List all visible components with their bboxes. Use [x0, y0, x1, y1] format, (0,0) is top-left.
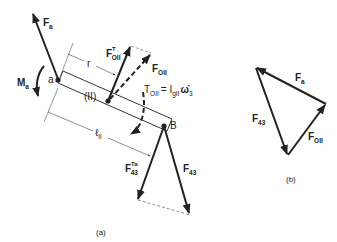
- extension-line-a-top: [60, 43, 73, 77]
- dimension-r-label: r: [87, 58, 91, 69]
- force-foii-t-label: FTOII: [106, 46, 121, 61]
- dimension-length-label: ℓII: [95, 127, 102, 140]
- force-foii-t: FTOII: [106, 46, 130, 101]
- parallelogram-top: [131, 46, 151, 53]
- force-f43: F43: [164, 126, 197, 213]
- dimension-length: ℓII: [48, 112, 150, 156]
- caption-b: (b): [286, 175, 296, 184]
- moment-ma-label: Ma: [17, 77, 29, 90]
- link-body: [58, 71, 172, 131]
- torque-equation: TOII= IgIIω̇3: [144, 84, 193, 98]
- part-a: r ℓII Ma Fa a (II) FTOII: [17, 14, 197, 237]
- force-fa-label: Fa: [43, 17, 53, 30]
- free-body-diagram: r ℓII Ma Fa a (II) FTOII: [0, 0, 337, 242]
- polygon-force-f43-label: F43: [252, 113, 266, 126]
- parallelogram-bottom: [138, 200, 190, 215]
- force-f43-ta: FTa43: [125, 126, 164, 199]
- point-b-label: B: [170, 120, 177, 131]
- caption-a: (a): [96, 228, 106, 237]
- polygon-force-foii: [288, 105, 325, 155]
- polygon-force-foii-label: FOII: [308, 131, 323, 144]
- extension-line-a-bottom: [44, 88, 58, 122]
- force-f43-ta-label: FTa43: [125, 161, 138, 176]
- moment-ma: Ma: [17, 66, 44, 96]
- force-foii-label: FOII: [152, 63, 167, 76]
- link-label: (II): [84, 91, 96, 102]
- part-b: Fa F43 FOII (b): [252, 68, 326, 184]
- point-a: [55, 77, 60, 82]
- force-fa: Fa: [33, 14, 58, 79]
- point-a-label: a: [48, 74, 54, 85]
- force-f43-label: F43: [183, 163, 197, 176]
- polygon-force-fa-label: Fa: [295, 72, 305, 85]
